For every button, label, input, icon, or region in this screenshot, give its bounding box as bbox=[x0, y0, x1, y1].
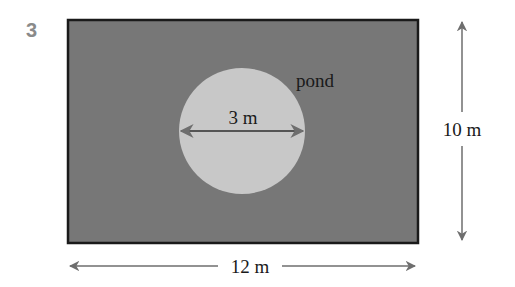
height-label: 10 m bbox=[443, 119, 482, 140]
pond-label: pond bbox=[296, 70, 335, 91]
pond-diagram: 3 3 m pond 10 m 12 m bbox=[0, 0, 515, 287]
width-label: 12 m bbox=[231, 256, 270, 277]
question-number: 3 bbox=[26, 19, 37, 41]
diameter-label: 3 m bbox=[228, 107, 257, 128]
